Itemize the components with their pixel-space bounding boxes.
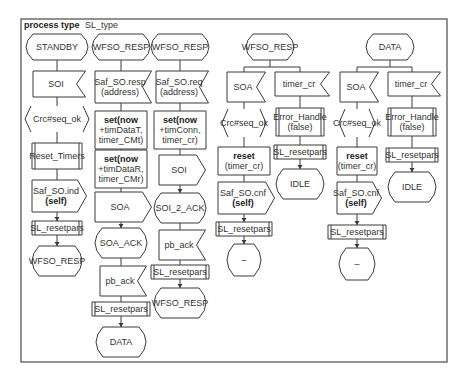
grp5-branch0-label: (self) bbox=[345, 198, 367, 208]
process-title-name: SL_type bbox=[85, 20, 118, 30]
grp4-branch0-label: – bbox=[241, 255, 246, 265]
col1-label: Crc#seq_ok bbox=[33, 114, 82, 124]
col3-input: Saf_SO.req(address) bbox=[155, 71, 208, 103]
grp4-branch0-label: Crc#seq_ok bbox=[220, 118, 269, 128]
grp4-branch1-label: IDLE bbox=[290, 179, 310, 189]
arrow-head-icon bbox=[55, 242, 60, 246]
col2-input: pb_ack bbox=[100, 266, 147, 296]
col3-label: SOI_2_ACK bbox=[155, 203, 204, 213]
process-title-keyword: process type bbox=[24, 20, 80, 30]
col1-decision: Crc#seq_ok bbox=[25, 106, 89, 132]
grp5-branch1-procedure: Error_Handle(false) bbox=[385, 108, 439, 136]
col2-task: set(now+timDataT,timer_CMt) bbox=[95, 111, 147, 149]
grp4-branch0-task: reset(timer_cr) bbox=[218, 147, 270, 175]
grp5-branch0-label: Saf_SO.cnf bbox=[333, 188, 380, 198]
col2-label: pb_ack bbox=[105, 276, 135, 286]
grp5-branch0-state: – bbox=[339, 248, 375, 280]
col1-state: STANDBY bbox=[26, 34, 88, 60]
grp4-branch1-state: IDLE bbox=[276, 169, 324, 199]
col3-label: SOI bbox=[171, 165, 187, 175]
col2-label: (address) bbox=[101, 87, 139, 97]
grp5-branch0-procedure: SL_resetpars bbox=[328, 225, 386, 239]
grp4-branch1-label: SL_resetpars bbox=[273, 147, 327, 157]
col2-input: Saf_SO.resp(address) bbox=[94, 71, 151, 103]
grp5-branch0-task: reset(timer_cr) bbox=[337, 147, 377, 175]
grp5-branch1-label: timer_cr bbox=[395, 79, 428, 89]
col1-state: WFSO_RESP bbox=[29, 246, 86, 276]
col3-label: set(now bbox=[163, 115, 198, 125]
col1-label: STANDBY bbox=[36, 42, 78, 52]
col2-label: SOA_ACK bbox=[100, 238, 143, 248]
arrow-head-icon bbox=[298, 165, 303, 169]
grp5-branch1-state: IDLE bbox=[388, 172, 436, 202]
grp5-branch0-label: SL_resetpars bbox=[330, 227, 384, 237]
grp5-state-label: DATA bbox=[379, 42, 402, 52]
grp4-branch0-output: Saf_SO.cnf(self) bbox=[218, 182, 275, 214]
grp4-state-label: WFSO_RESP bbox=[242, 42, 299, 52]
col1-label: SOI bbox=[48, 79, 64, 89]
col2-label: set(now bbox=[104, 115, 139, 125]
col2-label: SOA bbox=[110, 202, 129, 212]
col3-label: WFSO_RESP bbox=[152, 298, 209, 308]
col2-procedure: SL_resetpars bbox=[92, 302, 150, 316]
grp4-branch1-procedure: SL_resetpars bbox=[273, 145, 327, 159]
grp4-branch0-label: Saf_SO.cnf bbox=[220, 188, 267, 198]
grp4-branch0-input: SOA bbox=[227, 72, 266, 102]
col2-label: timer_CMt) bbox=[99, 135, 144, 145]
col3-task: set(now+timConn,timer_cr) bbox=[154, 111, 206, 149]
col1-label: WFSO_RESP bbox=[29, 256, 86, 266]
col2-label: WFSO_RESP bbox=[93, 42, 150, 52]
grp4-branch0-label: SOA bbox=[233, 82, 252, 92]
col3-input: pb_ack bbox=[159, 230, 206, 260]
col2-state: SOA_ACK bbox=[95, 228, 147, 258]
col3-label: Saf_SO.req bbox=[155, 77, 202, 87]
col2-label: timer_CMr) bbox=[99, 174, 144, 184]
col1-label: Reset_Timers bbox=[29, 151, 85, 161]
col2-task: set(now+timDataR,timer_CMr) bbox=[95, 150, 147, 188]
col1-procedure: Reset_Timers bbox=[29, 143, 85, 169]
grp5-branch1-label: (false) bbox=[399, 122, 424, 132]
arrow-head-icon bbox=[119, 224, 124, 228]
col3-state: WFSO_RESP bbox=[152, 288, 209, 318]
arrow-head-icon bbox=[178, 189, 183, 193]
col1-procedure: SL_resetpars bbox=[30, 221, 84, 235]
grp5-branch1-label: Error_Handle bbox=[385, 112, 439, 122]
col1-input: SOI bbox=[33, 71, 86, 97]
grp5-branch0-label: – bbox=[354, 259, 359, 269]
col3-output: SOI bbox=[159, 155, 206, 185]
col3-state: WFSO_RESP bbox=[151, 34, 209, 60]
grp5-state-state: DATA bbox=[366, 34, 414, 60]
grp5-branch0-label: SOA bbox=[346, 82, 365, 92]
grp5-branch0-label: Crc#seq_ok bbox=[333, 118, 382, 128]
grp5-branch1-procedure: SL_resetpars bbox=[385, 148, 439, 162]
col1-label: (self) bbox=[45, 196, 67, 206]
arrow-head-icon bbox=[242, 218, 247, 222]
grp4-branch1-label: timer_cr bbox=[283, 79, 316, 89]
col2-label: DATA bbox=[110, 337, 133, 347]
col2-state: WFSO_RESP bbox=[92, 34, 150, 60]
grp4-branch0-label: reset bbox=[233, 151, 255, 161]
grp5-branch0-output: Saf_SO.cnf(self) bbox=[333, 182, 382, 214]
col1-output: Saf_SO.ind(self) bbox=[32, 180, 87, 212]
arrow-head-icon bbox=[119, 323, 124, 327]
sdl-process-diagram: process type SL_type STANDBYSOICrc#seq_o… bbox=[0, 0, 466, 380]
col3-state: SOI_2_ACK bbox=[154, 193, 206, 223]
grp5-branch1-label: SL_resetpars bbox=[385, 150, 439, 160]
col1-label: Saf_SO.ind bbox=[33, 186, 79, 196]
col2-label: +timDataT, bbox=[99, 125, 142, 135]
col3-label: pb_ack bbox=[164, 240, 194, 250]
col2-state: DATA bbox=[96, 327, 146, 357]
grp5-branch1-label: IDLE bbox=[402, 182, 422, 192]
grp4-branch0-label: SL_resetpars bbox=[217, 224, 271, 234]
grp5-branch0-label: (timer_cr) bbox=[338, 161, 377, 171]
process-title: process type SL_type bbox=[24, 20, 118, 30]
grp4-branch1-input: timer_cr bbox=[275, 72, 330, 96]
grp5-branch0-label: reset bbox=[346, 151, 368, 161]
grp4-state-state: WFSO_RESP bbox=[242, 34, 299, 60]
col2-label: Saf_SO.resp bbox=[94, 77, 146, 87]
arrow-head-icon bbox=[242, 240, 247, 244]
col3-label: timer_cr) bbox=[162, 135, 198, 145]
grp5-branch1-input: timer_cr bbox=[388, 72, 441, 96]
grp4-branch0-decision: Crc#seq_ok bbox=[220, 109, 269, 137]
col3-label: WFSO_RESP bbox=[152, 42, 209, 52]
